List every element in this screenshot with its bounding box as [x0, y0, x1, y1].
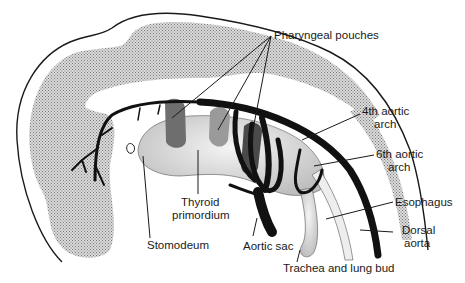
label-trachea-lung-bud: Trachea and lung bud: [283, 262, 394, 274]
pharyngeal-pouch-1: [165, 99, 186, 148]
label-4th-aortic-arch-line1: 4th aortic: [362, 105, 410, 117]
label-stomodeum: Stomodeum: [147, 239, 209, 251]
trachea-lung-bud: [300, 188, 318, 257]
label-thyroid-line1: Thyroid: [181, 196, 219, 208]
label-thyroid-line2: primordium: [172, 209, 230, 221]
label-esophagus: Esophagus: [395, 196, 453, 208]
label-aortic-sac: Aortic sac: [243, 240, 294, 252]
label-dorsal-aorta-line1: Dorsal: [402, 224, 435, 236]
label-4th-aortic-arch-line2: arch: [374, 118, 396, 130]
embryo-pharynx-diagram: Pharyngeal pouches 4th aortic arch 6th a…: [0, 0, 465, 283]
label-dorsal-aorta-line2: aorta: [404, 237, 431, 249]
aortic-sac: [258, 192, 272, 232]
stomodeum: [127, 144, 135, 154]
label-6th-aortic-arch-line1: 6th aortic: [376, 148, 424, 160]
label-pharyngeal-pouches: Pharyngeal pouches: [274, 29, 379, 41]
label-6th-aortic-arch-line2: arch: [388, 161, 410, 173]
diagram-canvas: Pharyngeal pouches 4th aortic arch 6th a…: [0, 0, 465, 283]
